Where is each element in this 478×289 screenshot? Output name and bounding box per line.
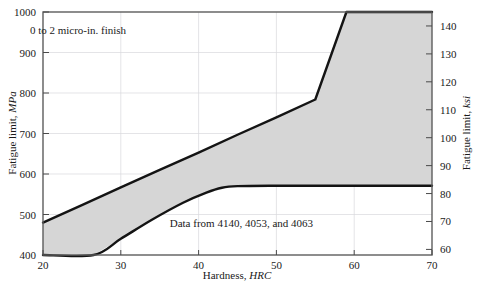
y-axis-left-title-prefix: Fatigue limit, bbox=[6, 113, 18, 175]
y-tick-label-right: 90 bbox=[440, 160, 452, 172]
x-axis-title: Hardness, HRC bbox=[203, 269, 272, 281]
finish-annotation: 0 to 2 micro-in. finish bbox=[30, 24, 127, 36]
y-tick-label-left: 700 bbox=[20, 128, 37, 140]
data-source-annotation: Data from 4140, 4053, and 4063 bbox=[170, 217, 314, 229]
y-tick-label-right: 110 bbox=[440, 104, 457, 116]
fatigue-limit-vs-hardness-chart: 203040506070 4005006007008009001000 6070… bbox=[0, 0, 478, 289]
y-tick-label-right: 120 bbox=[440, 76, 457, 88]
x-tick-label: 50 bbox=[271, 259, 283, 271]
y-axis-right-title-unit: ksi bbox=[460, 96, 472, 108]
y-tick-label-right: 100 bbox=[440, 132, 457, 144]
x-axis-title-prefix: Hardness, bbox=[203, 269, 249, 281]
y-tick-label-right: 70 bbox=[440, 215, 452, 227]
y-axis-right-tick-labels: 60708090100110120130140 bbox=[440, 20, 457, 255]
y-tick-label-left: 500 bbox=[20, 209, 37, 221]
x-tick-label: 60 bbox=[349, 259, 361, 271]
y-tick-label-left: 1000 bbox=[14, 6, 37, 18]
x-tick-label: 70 bbox=[427, 259, 439, 271]
x-tick-label: 30 bbox=[115, 259, 127, 271]
y-tick-label-left: 600 bbox=[20, 168, 37, 180]
y-axis-left-title: Fatigue limit, MPa bbox=[6, 91, 18, 175]
chart-figure: 203040506070 4005006007008009001000 6070… bbox=[0, 0, 478, 289]
x-tick-label: 20 bbox=[38, 259, 50, 271]
y-tick-label-right: 140 bbox=[440, 20, 457, 32]
y-tick-label-right: 60 bbox=[440, 243, 452, 255]
y-tick-label-left: 900 bbox=[20, 47, 37, 59]
y-tick-label-left: 400 bbox=[20, 249, 37, 261]
y-axis-right-title-prefix: Fatigue limit, bbox=[460, 108, 472, 170]
x-axis-title-unit: HRC bbox=[248, 269, 272, 281]
y-tick-label-right: 130 bbox=[440, 48, 457, 60]
y-tick-label-right: 80 bbox=[440, 188, 452, 200]
y-axis-right-title: Fatigue limit, ksi bbox=[460, 96, 472, 170]
y-axis-left-title-unit: MPa bbox=[6, 91, 18, 114]
y-tick-label-left: 800 bbox=[20, 87, 37, 99]
